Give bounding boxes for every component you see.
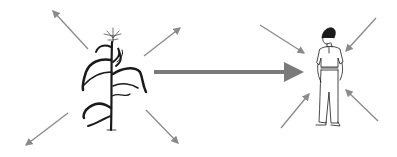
- tassel-icon: [104, 28, 121, 42]
- person-illustration: [316, 28, 343, 126]
- arrow-down-left: [26, 113, 68, 145]
- arrow-in-top-right: [346, 18, 376, 51]
- arrow-up-right: [144, 28, 180, 56]
- arrow-down-right: [146, 110, 178, 143]
- arrow-in-top-left: [260, 25, 304, 53]
- corn-plant-illustration: [83, 28, 146, 130]
- corn-outward-arrows: [26, 11, 180, 145]
- diagram-canvas: [0, 0, 397, 157]
- arrow-in-bottom-left: [281, 94, 309, 128]
- arrow-up-left: [53, 11, 88, 49]
- arrow-in-bottom-right: [346, 90, 378, 121]
